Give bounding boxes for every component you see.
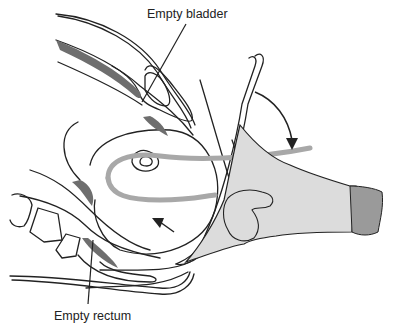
vertebra bbox=[30, 208, 62, 242]
vertebra bbox=[56, 234, 80, 258]
catheter-band-bottom bbox=[108, 178, 215, 200]
ovary-inner bbox=[140, 157, 152, 166]
anterior-wall-tissue bbox=[56, 40, 141, 98]
glove-cuff bbox=[350, 186, 383, 235]
label-empty-rectum: Empty rectum bbox=[54, 309, 131, 323]
bladder-leader-line bbox=[142, 24, 186, 102]
uterus-body bbox=[90, 130, 218, 254]
upward-left-arrow bbox=[160, 222, 174, 232]
posterior-wall bbox=[30, 170, 150, 250]
uterus-outline bbox=[64, 122, 80, 180]
vertebra bbox=[10, 194, 32, 227]
downward-curved-arrow bbox=[255, 92, 292, 140]
perineum-line bbox=[10, 272, 190, 288]
abdominal-wall-line bbox=[56, 14, 195, 125]
sacrum-line bbox=[20, 196, 160, 258]
rectum-leader-line bbox=[88, 240, 93, 304]
figure-canvas: Empty bladder Empty rectum bbox=[0, 0, 394, 334]
anatomy-illustration bbox=[0, 0, 394, 334]
vesicouterine-tissue bbox=[143, 116, 168, 136]
label-empty-bladder: Empty bladder bbox=[147, 7, 228, 21]
rectum-fill bbox=[82, 238, 118, 268]
